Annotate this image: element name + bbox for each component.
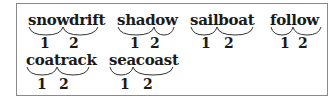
word-seacoast: seacoast [109,52,179,68]
label-1: 1 [280,36,290,50]
label-2: 2 [298,36,308,50]
word-coatrack: coatrack [26,52,97,68]
label-1: 1 [120,77,130,91]
word-sailboat: sailboat [190,12,254,28]
label-2: 2 [224,36,234,50]
word-follow: follow [270,12,319,28]
label-2: 2 [143,77,153,91]
label-1: 1 [40,36,50,50]
label-2: 2 [69,36,79,50]
label-1: 1 [130,36,140,50]
label-1: 1 [37,77,47,91]
word-shadow: shadow [117,12,178,28]
bracket-icon [117,26,177,38]
label-2: 2 [150,36,160,50]
bracket-icon [28,26,100,38]
label-1: 1 [201,36,211,50]
label-2: 2 [59,77,69,91]
word-snowdrift: snowdrift [28,12,105,28]
